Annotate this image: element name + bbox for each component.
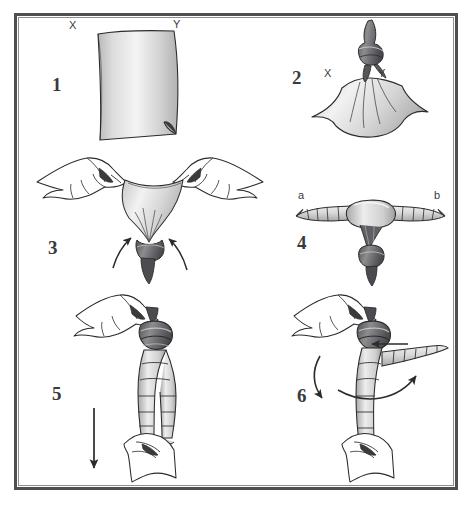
side-rolled-arm — [382, 346, 448, 366]
panel-5 — [62, 292, 242, 482]
knot-tail — [136, 240, 164, 284]
corner-label-y: Y — [173, 19, 180, 30]
hanging-cloth-shape — [312, 78, 428, 137]
rolled-bar-shape — [296, 200, 445, 228]
step-number-2: 2 — [292, 68, 302, 87]
step-number-5: 5 — [52, 384, 62, 403]
end-label-b: b — [434, 190, 440, 201]
panel-5-illustration — [62, 292, 242, 482]
stretched-cloth-shape — [122, 180, 183, 242]
right-hand — [173, 158, 263, 199]
panel-4-illustration — [288, 182, 453, 287]
arrow-panel3-left — [113, 238, 131, 268]
arrow-panel3-right — [169, 239, 187, 270]
panel-2: X Y — [280, 18, 440, 153]
flat-cloth-shape — [98, 31, 178, 140]
knot-below-bar — [359, 225, 384, 286]
panel-6 — [280, 292, 460, 482]
corner-label-x: X — [69, 20, 76, 31]
panel-3 — [25, 150, 275, 285]
bottom-hand — [342, 433, 394, 482]
arrow-panel6-curve-down — [314, 356, 322, 398]
corner-label-x: X — [324, 68, 331, 79]
corner-label-y: Y — [378, 68, 385, 79]
step-number-6: 6 — [297, 386, 307, 405]
step-number-3: 3 — [48, 238, 58, 257]
step-number-1: 1 — [52, 75, 62, 94]
panel-6-illustration — [280, 292, 460, 482]
end-label-a: a — [298, 190, 304, 201]
panel-3-illustration — [25, 150, 275, 285]
step-number-4: 4 — [297, 233, 307, 252]
panel-2-illustration — [280, 18, 440, 153]
diagram-page: X Y 1 X Y 2 — [0, 0, 476, 508]
panel-4: a b — [288, 182, 453, 287]
left-hand — [37, 158, 127, 199]
